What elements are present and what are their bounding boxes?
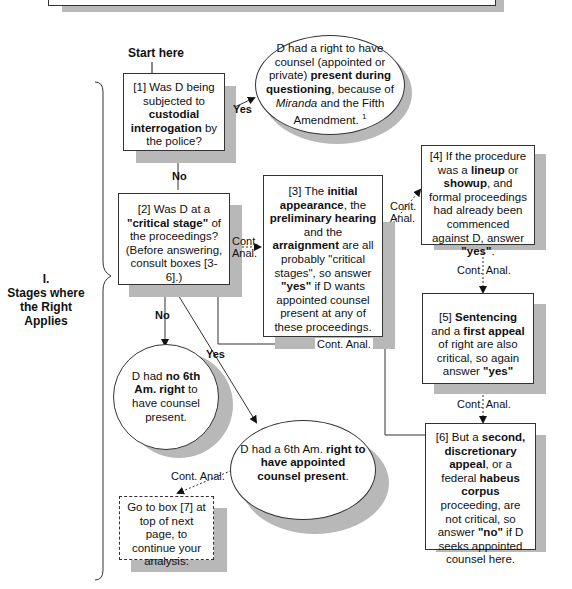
no-label-1: No	[172, 170, 187, 182]
question-box-1[interactable]: [1] Was D being subjected to custodial i…	[123, 73, 225, 151]
outcome-oval-no-right[interactable]: D had no 6th Am. right to have counsel p…	[113, 344, 219, 450]
yes-label-1: Yes	[233, 103, 252, 115]
cont-anal-label-5-6: Cont. Anal.	[457, 398, 511, 410]
section-numeral: I.	[6, 272, 86, 286]
info-box-6[interactable]: [6] But a second, discretionary appeal, …	[425, 423, 536, 550]
question-box-2[interactable]: [2] Was D at a "critical stage" of the p…	[118, 193, 230, 285]
outcome-oval-miranda[interactable]: D had a right to have counsel (appointed…	[255, 35, 405, 135]
section-label: I. Stages where the Right Applies	[6, 272, 86, 328]
goto-box-7-link[interactable]: Go to box [7] at top of next page, to co…	[119, 496, 214, 560]
no-label-2: No	[155, 309, 170, 321]
section-brace	[95, 82, 111, 580]
cont-anal-label-4-5: Cont. Anal.	[457, 264, 511, 276]
section-title: Stages where the Right Applies	[6, 286, 86, 328]
start-label: Start here	[128, 47, 184, 59]
cont-anal-label-2-3: Cont. Anal.	[232, 235, 260, 259]
cont-anal-label-3-4: Cont. Anal.	[390, 200, 418, 224]
cont-anal-label-goto: Cont. Anal.	[171, 470, 225, 482]
footnote-marker[interactable]: 1	[362, 112, 366, 121]
info-box-4[interactable]: [4] If the procedure was a lineup or sho…	[421, 145, 535, 245]
yes-label-2: Yes	[206, 348, 225, 360]
cont-anal-label-6-2: Cont. Anal.	[315, 338, 373, 350]
info-box-5[interactable]: [5] Sentencing and a first appeal of rig…	[422, 293, 534, 384]
info-box-3[interactable]: [3] The initial appearance, the prelimin…	[263, 175, 383, 337]
outcome-oval-right[interactable]: D had a 6th Am. right to have appointed …	[230, 420, 376, 520]
